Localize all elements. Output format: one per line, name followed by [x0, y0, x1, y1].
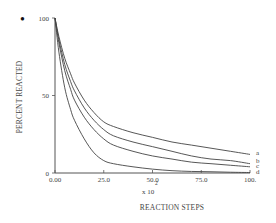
series-line-b [55, 18, 250, 164]
series-group [55, 18, 250, 173]
series-labels: abcd [256, 149, 260, 176]
line-chart: • 0501000.0025.050.075.0100. abcd PERCEN… [0, 0, 276, 223]
x-multiplier-exponent: 2 [155, 180, 158, 186]
x-tick-label: 75.0 [195, 176, 208, 184]
series-line-a [55, 18, 250, 154]
bullet-mark: • [20, 12, 25, 27]
series-line-c [55, 18, 250, 167]
x-axis-title: REACTION STEPS [140, 203, 204, 212]
y-tick-label: 50 [42, 92, 50, 100]
x-tick-label: 0.00 [49, 176, 62, 184]
series-label-a: a [256, 149, 260, 157]
series-label-d: d [256, 168, 260, 176]
axes: 0501000.0025.050.075.0100. [39, 15, 257, 185]
x-tick-label: 100. [244, 176, 257, 184]
y-axis-title: PERCENT REACTED [15, 60, 24, 133]
x-tick-label: 25.0 [98, 176, 111, 184]
y-tick-label: 100 [39, 15, 50, 23]
x-multiplier: x 10 [142, 188, 155, 196]
